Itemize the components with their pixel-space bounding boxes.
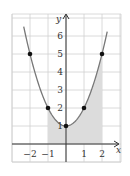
data-point bbox=[28, 52, 33, 57]
y-tick-label: 3 bbox=[57, 85, 63, 95]
y-tick-label: 6 bbox=[57, 31, 63, 41]
y-axis-label: y bbox=[55, 14, 62, 24]
y-tick-label: 1 bbox=[57, 121, 63, 131]
x-tick-label: 1 bbox=[81, 149, 87, 159]
x-tick-label: 2 bbox=[99, 149, 105, 159]
shaded-area bbox=[48, 54, 102, 144]
parabola-chart: −2−112123456 x y bbox=[0, 0, 130, 176]
x-axis-label: x bbox=[116, 145, 121, 155]
data-point bbox=[100, 52, 105, 57]
data-point bbox=[64, 124, 69, 129]
data-point bbox=[46, 106, 51, 111]
data-point bbox=[82, 106, 87, 111]
y-tick-label: 4 bbox=[57, 67, 63, 77]
y-tick-label: 5 bbox=[57, 49, 63, 59]
x-tick-label: −2 bbox=[23, 149, 36, 159]
y-tick-label: 2 bbox=[57, 103, 63, 113]
x-tick-label: −1 bbox=[41, 149, 54, 159]
